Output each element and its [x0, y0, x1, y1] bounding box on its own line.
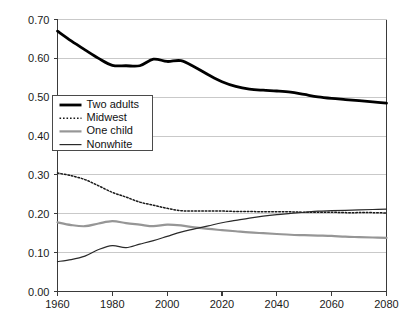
- x-tick-marks-group: [58, 292, 387, 296]
- x-tick-label-1980: 1980: [100, 298, 124, 310]
- legend-item-two-adults-label: Two adults: [87, 98, 140, 110]
- x-tick-label-2020: 2020: [210, 298, 234, 310]
- legend-item-one-child-label: One child: [87, 124, 133, 136]
- y-tick-label-0.40: 0.40: [28, 130, 49, 142]
- y-tick-label-0.10: 0.10: [28, 247, 49, 259]
- y-tick-label-0.50: 0.50: [28, 91, 49, 103]
- axes-group: [58, 20, 387, 292]
- y-axis-tick-labels: 0.000.100.200.300.400.500.600.70: [28, 14, 49, 298]
- chart-canvas: 0.000.100.200.300.400.500.600.70 1960198…: [0, 0, 405, 323]
- y-tick-label-0.30: 0.30: [28, 169, 49, 181]
- x-tick-label-1960: 1960: [45, 298, 69, 310]
- series-line-midwest: [58, 173, 387, 213]
- y-tick-marks-group: [54, 20, 58, 292]
- series-line-two-adults: [58, 31, 387, 103]
- series-line-one-child: [58, 221, 387, 238]
- x-axis-tick-labels: 1960198020002020204020602080: [45, 298, 398, 310]
- y-tick-label-0.00: 0.00: [28, 286, 49, 298]
- y-tick-label-0.20: 0.20: [28, 208, 49, 220]
- legend-item-nonwhite-label: Nonwhite: [87, 138, 133, 150]
- y-tick-label-0.70: 0.70: [28, 14, 49, 26]
- legend-item-midwest-label: Midwest: [87, 111, 127, 123]
- line-chart: 0.000.100.200.300.400.500.600.70 1960198…: [0, 0, 405, 323]
- x-tick-label-2060: 2060: [319, 298, 343, 310]
- x-tick-label-2080: 2080: [374, 298, 398, 310]
- y-tick-label-0.60: 0.60: [28, 52, 49, 64]
- x-tick-label-2000: 2000: [155, 298, 179, 310]
- x-tick-label-2040: 2040: [265, 298, 289, 310]
- chart-legend: Two adultsMidwestOne childNonwhite: [53, 96, 153, 151]
